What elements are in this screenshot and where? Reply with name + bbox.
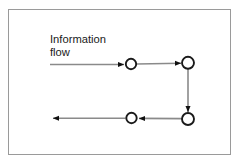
node-1 <box>126 59 136 69</box>
node-3 <box>182 113 194 125</box>
node-4 <box>126 113 136 123</box>
edge-node-1-to-node-2 <box>137 63 182 64</box>
figure-root: Information flow <box>0 0 240 167</box>
information-flow-label-line1: Information <box>50 33 106 45</box>
information-flow-label-line2: flow <box>50 46 71 58</box>
node-2 <box>182 57 194 69</box>
information-flow-diagram: Information flow <box>0 0 240 167</box>
